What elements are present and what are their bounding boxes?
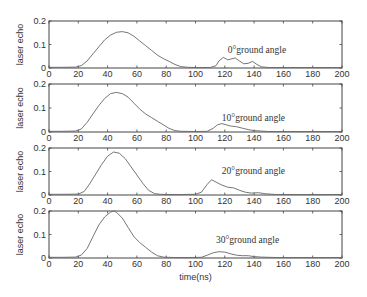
subplot-2: 02040608010012014016018020000.10.2laser … xyxy=(15,79,350,143)
subplot-3: 02040608010012014016018020000.10.2laser … xyxy=(15,143,350,206)
x-tick-label: 60 xyxy=(132,259,142,269)
subplot-4: 02040608010012014016018020000.10.2laser … xyxy=(15,206,350,282)
axes-box xyxy=(49,148,342,195)
x-tick-label: 160 xyxy=(276,196,291,206)
x-tick-label: 180 xyxy=(305,133,320,143)
x-tick-label: 20 xyxy=(73,133,83,143)
x-tick-label: 140 xyxy=(247,69,262,79)
x-tick-label: 140 xyxy=(247,196,262,206)
x-tick-label: 180 xyxy=(305,259,320,269)
x-tick-label: 180 xyxy=(305,69,320,79)
y-tick-label: 0.2 xyxy=(33,79,46,89)
ground-angle-annotation: 30°ground angle xyxy=(216,235,279,245)
x-tick-label: 140 xyxy=(247,259,262,269)
x-tick-label: 80 xyxy=(161,196,171,206)
y-tick-label: 0 xyxy=(41,253,46,263)
axes-box xyxy=(49,21,342,68)
x-tick-label: 80 xyxy=(161,259,171,269)
y-tick-label: 0 xyxy=(41,63,46,73)
y-axis-label: laser echo xyxy=(15,87,25,129)
y-tick-label: 0.1 xyxy=(33,40,46,50)
x-tick-label: 40 xyxy=(103,133,113,143)
y-tick-label: 0.1 xyxy=(33,103,46,113)
x-tick-label: 120 xyxy=(217,259,232,269)
chart-canvas: 02040608010012014016018020000.10.2laser … xyxy=(0,0,367,297)
x-tick-label: 200 xyxy=(334,133,349,143)
y-axis-label: laser echo xyxy=(15,151,25,193)
x-tick-label: 180 xyxy=(305,196,320,206)
x-tick-label: 80 xyxy=(161,69,171,79)
x-axis-label: time(ns) xyxy=(179,272,212,282)
x-tick-label: 60 xyxy=(132,69,142,79)
y-tick-label: 0 xyxy=(41,127,46,137)
y-tick-label: 0.2 xyxy=(33,143,46,153)
x-tick-label: 120 xyxy=(217,69,232,79)
y-tick-label: 0.2 xyxy=(33,16,46,26)
y-axis-label: laser echo xyxy=(15,24,25,66)
x-tick-label: 100 xyxy=(188,259,203,269)
x-tick-label: 100 xyxy=(188,133,203,143)
y-tick-label: 0.1 xyxy=(33,230,46,240)
x-tick-label: 160 xyxy=(276,259,291,269)
x-tick-label: 100 xyxy=(188,69,203,79)
x-tick-label: 20 xyxy=(73,259,83,269)
x-tick-label: 60 xyxy=(132,133,142,143)
x-tick-label: 40 xyxy=(103,69,113,79)
x-tick-label: 0 xyxy=(46,69,51,79)
x-tick-label: 20 xyxy=(73,196,83,206)
x-tick-label: 0 xyxy=(46,133,51,143)
x-tick-label: 200 xyxy=(334,196,349,206)
ground-angle-annotation: 10°ground angle xyxy=(222,113,285,123)
ground-angle-annotation: 20°ground angle xyxy=(222,166,285,176)
axes-box xyxy=(49,211,342,258)
x-tick-label: 60 xyxy=(132,196,142,206)
x-tick-label: 80 xyxy=(161,133,171,143)
subplot-1: 02040608010012014016018020000.10.2laser … xyxy=(15,16,350,79)
x-tick-label: 200 xyxy=(334,259,349,269)
x-tick-label: 40 xyxy=(103,259,113,269)
axes-box xyxy=(49,84,342,132)
x-tick-label: 0 xyxy=(46,259,51,269)
x-tick-label: 200 xyxy=(334,69,349,79)
x-tick-label: 20 xyxy=(73,69,83,79)
x-tick-label: 120 xyxy=(217,196,232,206)
x-tick-label: 160 xyxy=(276,69,291,79)
y-tick-label: 0.1 xyxy=(33,167,46,177)
x-tick-label: 0 xyxy=(46,196,51,206)
ground-angle-annotation: 0°ground angle xyxy=(228,45,286,55)
y-tick-label: 0 xyxy=(41,190,46,200)
x-tick-label: 140 xyxy=(247,133,262,143)
x-tick-label: 160 xyxy=(276,133,291,143)
x-tick-label: 120 xyxy=(217,133,232,143)
y-tick-label: 0.2 xyxy=(33,206,46,216)
figure: 02040608010012014016018020000.10.2laser … xyxy=(0,0,367,297)
x-tick-label: 100 xyxy=(188,196,203,206)
x-tick-label: 40 xyxy=(103,196,113,206)
y-axis-label: laser echo xyxy=(15,214,25,256)
